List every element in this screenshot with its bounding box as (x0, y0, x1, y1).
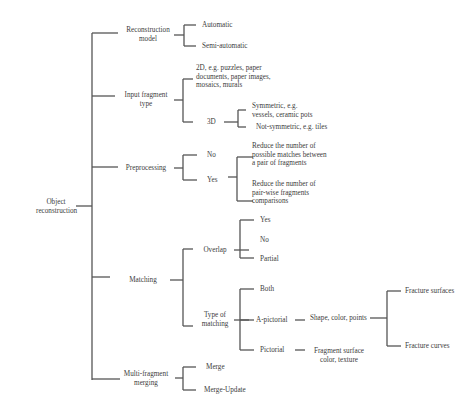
node-fragment-surface-color-texture: Fragment surface color, texture (303, 347, 375, 364)
node-type-of-matching: Type of matching (196, 311, 234, 328)
node-overlap: Overlap (196, 246, 234, 255)
node-input-fragment-type: Input fragment type (116, 91, 176, 108)
node-multi-fragment-merging: Multi-fragment merging (116, 370, 176, 387)
node-matching: Matching (118, 276, 168, 285)
node-a-pictorial: A-pictorial (256, 316, 288, 325)
taxonomy-diagram: Object reconstruction Reconstruction mod… (0, 0, 474, 410)
node-preprocessing: Preprocessing (120, 164, 172, 173)
node-both: Both (260, 285, 274, 294)
node-3d: 3D (207, 118, 216, 127)
node-overlap-no: No (260, 236, 269, 245)
node-symmetric: Symmetric, e.g. vessels, ceramic pots (252, 102, 312, 119)
node-reduce-possible-matches: Reduce the number of possible matches be… (252, 142, 327, 168)
node-preprocessing-no: No (207, 151, 216, 160)
node-preprocessing-yes: Yes (207, 176, 217, 185)
root-node-object-reconstruction: Object reconstruction (36, 198, 76, 215)
node-shape-color-points: Shape, color, points (310, 314, 367, 323)
node-fracture-surfaces: Fracture surfaces (405, 287, 454, 296)
node-merge: Merge (206, 363, 225, 372)
node-merge-update: Merge-Update (204, 386, 246, 395)
node-reconstruction-model: Reconstruction model (118, 26, 178, 43)
node-overlap-partial: Partial (260, 255, 279, 264)
node-not-symmetric: Not-symmetric, e.g. tiles (256, 123, 327, 132)
node-fracture-curves: Fracture curves (405, 342, 450, 351)
node-pictorial: Pictorial (260, 346, 284, 355)
node-reduce-pairwise-comparisons: Reduce the number of pair-wise fragments… (252, 180, 316, 206)
node-overlap-yes: Yes (260, 216, 270, 225)
node-automatic: Automatic (202, 21, 232, 30)
node-2d: 2D, e.g. puzzles, paper documents, paper… (196, 64, 271, 90)
node-semi-automatic: Semi-automatic (202, 42, 248, 51)
